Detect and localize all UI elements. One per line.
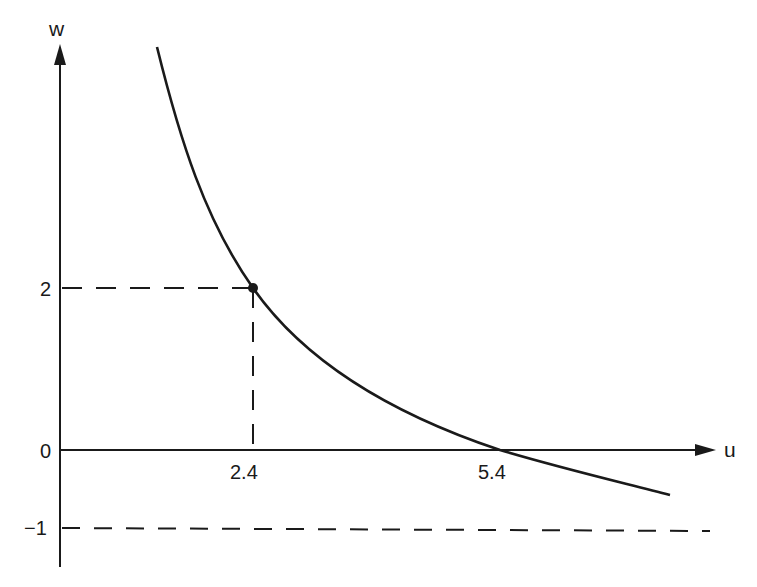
x-tick-5-4: 5.4 [478,462,506,482]
x-axis-arrow-icon [695,444,716,456]
asymptote-line [62,528,710,531]
y-tick-0: 0 [40,441,51,461]
marked-point [248,283,258,293]
x-axis-label: u [724,439,736,460]
y-tick-neg1: −1 [24,518,47,538]
y-tick-2: 2 [40,279,51,299]
curve-line [157,47,670,495]
y-axis-label: w [49,18,64,39]
y-axis-arrow-icon [54,44,66,65]
chart-canvas [0,0,757,587]
x-tick-2-4: 2.4 [230,462,258,482]
